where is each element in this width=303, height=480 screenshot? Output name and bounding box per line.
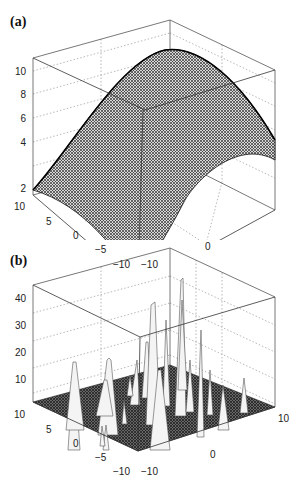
svg-text:10: 10: [15, 374, 27, 385]
z-axis-ticks-b: 40 30 20 10: [15, 293, 27, 385]
panel-a: (a): [0, 0, 303, 240]
svg-text:10: 10: [15, 66, 27, 77]
svg-text:2: 2: [20, 183, 26, 194]
svg-text:20: 20: [15, 347, 27, 358]
svg-text:10: 10: [278, 413, 290, 424]
svg-text:4: 4: [20, 137, 26, 148]
svg-text:−10: −10: [141, 466, 158, 477]
svg-text:6: 6: [20, 113, 26, 124]
svg-text:10: 10: [14, 409, 26, 420]
svg-text:40: 40: [15, 293, 27, 304]
svg-text:−10: −10: [113, 466, 130, 477]
surface-plot-a: 10 8 6 4 2 10 5 0: [0, 0, 303, 240]
svg-text:30: 30: [15, 320, 27, 331]
svg-text:8: 8: [20, 89, 26, 100]
svg-text:−5: −5: [95, 452, 107, 463]
svg-text:10: 10: [14, 201, 26, 212]
svg-text:0: 0: [73, 438, 79, 449]
svg-text:10: 10: [276, 215, 288, 217]
surface-plot-b: 40 30 20 10 10 5 0 −5 −10 −10 0 10: [0, 240, 303, 480]
panel-b-label: (b): [10, 253, 27, 269]
svg-text:5: 5: [46, 424, 52, 435]
svg-text:0: 0: [210, 449, 216, 460]
panel-a-label: (a): [10, 14, 26, 30]
z-axis-ticks-a: 10 8 6 4 2: [15, 66, 27, 194]
panel-b: (b): [0, 240, 303, 480]
